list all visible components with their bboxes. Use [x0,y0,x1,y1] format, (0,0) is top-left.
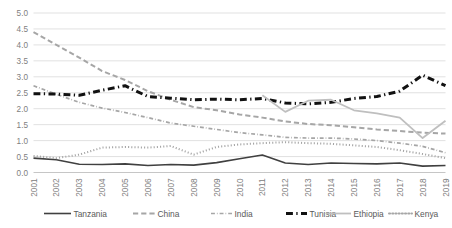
x-tick-label: 2002 [52,178,61,197]
y-tick-label: 0.0 [17,169,29,178]
y-tick-label: 1.5 [17,121,29,130]
x-axis-tick-labels: 2001200220032004200520062007200820092010… [30,178,451,197]
y-tick-label: 3.5 [17,57,29,66]
series-line-tunisia [34,75,446,104]
x-tick-label: 2015 [350,178,359,197]
y-tick-label: 3.0 [17,73,29,82]
chart-legend: TanzaniaChinaIndiaTunisiaEthiopiaKenya [44,209,439,219]
x-tick-label: 2001 [30,178,39,197]
series-line-kenya [34,142,446,158]
x-tick-label: 2012 [281,178,290,197]
x-tick-label: 2019 [442,178,451,197]
x-tick-label: 2017 [396,178,405,197]
series-line-india [34,86,446,153]
x-tick-label: 2010 [236,178,245,197]
x-tick-label: 2006 [144,178,153,197]
x-tick-label: 2011 [258,178,267,196]
x-tick-label: 2016 [373,178,382,197]
x-tick-label: 2014 [327,178,336,197]
legend-label-ethiopia[interactable]: Ethiopia [354,209,385,219]
y-tick-label: 0.5 [17,153,29,162]
y-axis-tick-labels: 0.00.51.01.52.02.53.03.54.04.55.0 [17,9,29,178]
chart-canvas: 0.00.51.01.52.02.53.03.54.04.55.0 200120… [0,0,452,228]
y-tick-label: 1.0 [17,137,29,146]
legend-label-china[interactable]: China [158,209,180,219]
x-tick-label: 2008 [190,178,199,197]
x-tick-label: 2007 [167,178,176,197]
legend-label-kenya[interactable]: Kenya [415,209,439,219]
legend-label-india[interactable]: India [235,209,254,219]
y-tick-label: 2.5 [17,89,29,98]
series-line-china [34,32,446,133]
x-tick-label: 2009 [213,178,222,197]
series-group [34,32,446,166]
x-tick-label: 2004 [98,178,107,197]
y-tick-label: 2.0 [17,105,29,114]
y-tick-label: 5.0 [17,9,29,18]
y-tick-label: 4.0 [17,41,29,50]
y-tick-label: 4.5 [17,25,29,34]
line-chart: 0.00.51.01.52.02.53.03.54.04.55.0 200120… [0,0,452,228]
legend-label-tanzania[interactable]: Tanzania [74,209,108,219]
x-tick-label: 2013 [304,178,313,197]
x-tick-label: 2005 [121,178,130,197]
x-tick-label: 2003 [75,178,84,197]
x-tick-label: 2018 [419,178,428,197]
